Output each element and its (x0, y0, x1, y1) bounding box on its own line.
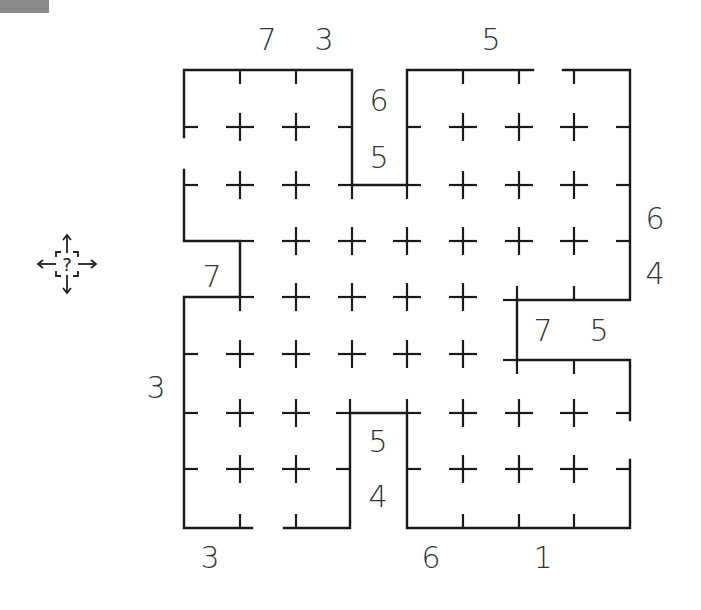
clue-inner-bottom-2: 4 (368, 482, 387, 512)
clue-bottom-1: 3 (200, 543, 219, 573)
clue-left-notch: 7 (202, 262, 221, 292)
move-question-icon: ? (34, 231, 100, 297)
clue-left-1: 3 (146, 373, 165, 403)
clue-bottom-3: 1 (533, 543, 552, 573)
clue-right-1: 6 (645, 204, 664, 234)
clue-bottom-2: 6 (421, 543, 440, 573)
hint-button[interactable]: ? (34, 231, 100, 297)
clue-top-2: 3 (314, 25, 333, 55)
clue-inner-top-1: 6 (369, 86, 388, 116)
clue-inner-top-2: 5 (369, 143, 388, 173)
clue-top-3: 5 (481, 25, 500, 55)
clue-top-1: 7 (257, 25, 276, 55)
hint-glyph: ? (62, 254, 72, 275)
clue-right-notch-1: 7 (533, 316, 552, 346)
clue-right-2: 4 (645, 259, 664, 289)
wall-bottom-middle (284, 413, 630, 528)
clue-inner-bottom-1: 5 (368, 427, 387, 457)
puzzle-board[interactable] (0, 0, 701, 610)
clue-right-notch-2: 5 (589, 316, 608, 346)
